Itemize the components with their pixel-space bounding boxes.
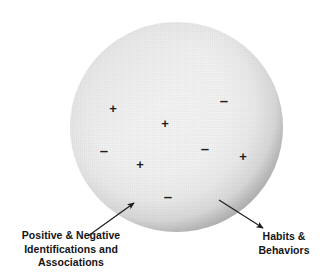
diagram-canvas: +–+––++– Positive & Negative Identificat… (0, 0, 323, 280)
label-positive-negative: Positive & Negative Identifications and … (8, 229, 134, 270)
marker-minus: – (201, 141, 209, 156)
marker-plus: + (239, 150, 247, 163)
label-habits-behaviors: Habits & Behaviors (245, 230, 323, 257)
marker-plus: + (136, 158, 144, 171)
main-sphere (70, 22, 283, 232)
marker-minus: – (100, 143, 108, 158)
sphere-rim (70, 22, 283, 232)
marker-plus: + (109, 102, 117, 115)
marker-minus: – (220, 93, 228, 108)
marker-plus: + (161, 117, 169, 130)
marker-minus: – (164, 189, 172, 204)
